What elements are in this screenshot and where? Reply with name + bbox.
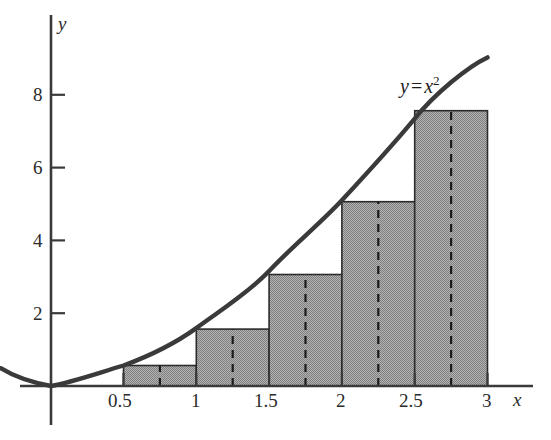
y-tick-label: 6 xyxy=(33,158,43,177)
equation-operator: = xyxy=(409,75,424,97)
equation-exponent: 2 xyxy=(433,73,440,88)
x-tick-label: 1.5 xyxy=(254,391,278,410)
bars-group xyxy=(124,111,488,386)
y-tick-label: 2 xyxy=(33,304,43,323)
x-tick-label: 0.5 xyxy=(108,391,132,410)
x-tick-label: 1 xyxy=(191,391,201,410)
curve-equation-annotation: y=x2 xyxy=(400,76,440,96)
plot-area xyxy=(0,0,551,440)
equation-lhs: y xyxy=(400,75,409,97)
bar-rect xyxy=(415,111,488,386)
figure-canvas: y x 2 4 6 8 0.5 1 1.5 2 2.5 3 y=x2 xyxy=(0,0,551,440)
x-tick-label: 2 xyxy=(336,391,346,410)
equation-base: x xyxy=(424,75,433,97)
y-axis-label: y xyxy=(58,14,66,33)
y-tick-label: 8 xyxy=(33,85,43,104)
y-tick-label: 4 xyxy=(33,231,43,250)
x-axis-label: x xyxy=(513,390,521,409)
y-tick-marks xyxy=(51,95,65,313)
x-tick-label: 3 xyxy=(482,391,492,410)
x-tick-label: 2.5 xyxy=(399,391,423,410)
